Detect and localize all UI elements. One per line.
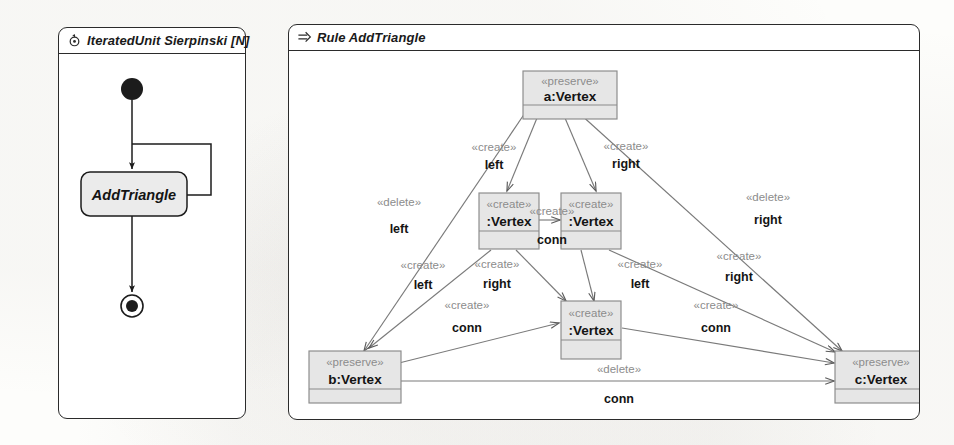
rule-panel[interactable]: Rule AddTriangle <box>288 24 920 420</box>
edge-v2-v3[interactable] <box>581 250 594 301</box>
node-v1-name: :Vertex <box>486 214 532 229</box>
iterated-unit-canvas: AddTriangle <box>59 54 245 418</box>
node-b-vertex[interactable]: «preserve» b:Vertex <box>309 351 401 403</box>
edge-v3-c-name: conn <box>701 321 731 335</box>
edge-a-v2-name: right <box>612 157 641 171</box>
iterated-unit-panel-header: IteratedUnit Sierpinski [N] <box>59 28 245 54</box>
edge-v2-c-stereotype: «create» <box>717 250 762 262</box>
node-v1-stereotype: «create» <box>487 198 532 210</box>
edge-v1-b-name: left <box>414 278 434 292</box>
edge-a-c-stereotype: «delete» <box>746 191 790 203</box>
node-v3-name: :Vertex <box>568 323 614 338</box>
edge-a-v2[interactable] <box>565 118 596 191</box>
iterated-unit-panel[interactable]: IteratedUnit Sierpinski [N] AddTriangle <box>58 27 246 419</box>
edge-b-c-stereotype: «delete» <box>597 363 641 375</box>
rule-arrow-icon <box>297 30 312 45</box>
node-v2-vertex[interactable]: «create» :Vertex <box>561 193 621 249</box>
edge-v2-v3-stereotype: «create» <box>618 258 663 270</box>
edge-v1-b-stereotype: «create» <box>401 259 446 271</box>
edge-v3-c-stereotype: «create» <box>694 299 739 311</box>
node-c-vertex[interactable]: «preserve» c:Vertex <box>835 351 919 403</box>
node-v2-name: :Vertex <box>568 214 614 229</box>
rule-graph-canvas: «preserve» a:Vertex «create» :Vertex «cr… <box>289 51 919 419</box>
edge-v1-v2-name: conn <box>537 233 567 247</box>
rule-panel-header: Rule AddTriangle <box>289 25 919 51</box>
iterated-unit-icon <box>67 33 82 48</box>
edge-b-v3-stereotype: «create» <box>445 299 490 311</box>
edge-b-v3-name: conn <box>452 321 482 335</box>
edge-a-v1-name: left <box>485 158 505 172</box>
node-v2-stereotype: «create» <box>569 198 614 210</box>
rule-title: Rule AddTriangle <box>317 30 426 45</box>
edge-a-b-name: left <box>390 222 410 236</box>
node-v3-vertex[interactable]: «create» :Vertex <box>561 301 621 359</box>
node-v1-vertex[interactable]: «create» :Vertex <box>479 193 539 249</box>
iterated-unit-title: IteratedUnit Sierpinski [N] <box>87 33 249 48</box>
edge-v1-v3-stereotype: «create» <box>475 258 520 270</box>
edge-a-v1-stereotype: «create» <box>472 141 517 153</box>
edge-b-c-name: conn <box>604 392 634 406</box>
action-node-label: AddTriangle <box>91 187 176 203</box>
action-node-addtriangle[interactable]: AddTriangle <box>81 172 187 216</box>
node-c-stereotype: «preserve» <box>852 356 910 368</box>
edge-v1-v2-stereotype: «create» <box>530 205 575 217</box>
edge-a-b-stereotype: «delete» <box>377 196 421 208</box>
edge-v2-v3-name: left <box>631 277 651 291</box>
node-b-name: b:Vertex <box>328 372 382 387</box>
node-c-name: c:Vertex <box>855 372 908 387</box>
edge-v1-v3[interactable] <box>516 250 566 301</box>
edge-a-v1[interactable] <box>507 118 537 191</box>
edge-v2-c-name: right <box>725 270 754 284</box>
node-b-stereotype: «preserve» <box>326 356 384 368</box>
final-node <box>121 295 143 317</box>
node-a-stereotype: «preserve» <box>541 75 599 87</box>
edge-v1-v3-name: right <box>483 277 512 291</box>
edge-a-v2-stereotype: «create» <box>604 140 649 152</box>
node-v3-stereotype: «create» <box>569 307 614 319</box>
node-a-name: a:Vertex <box>544 89 597 104</box>
node-a-vertex[interactable]: «preserve» a:Vertex <box>523 71 617 119</box>
edge-a-c-name: right <box>754 213 783 227</box>
initial-node <box>121 78 143 100</box>
